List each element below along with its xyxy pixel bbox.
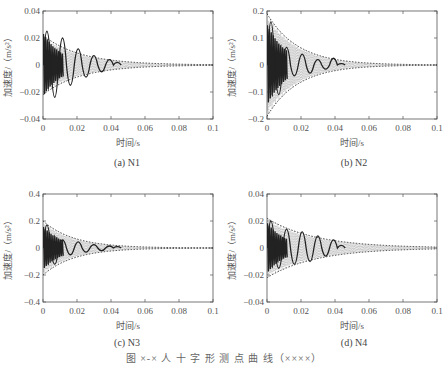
x-axis-label: 时间/s xyxy=(340,320,365,331)
x-axis-label: 时间/s xyxy=(116,137,141,148)
y-axis-label: 加速度/（m/s²） xyxy=(2,33,13,96)
chart-panel-d: 00.020.040.060.080.1−0.04−0.0200.020.04时… xyxy=(224,184,448,344)
x-axis-label: 时间/s xyxy=(116,320,141,331)
plot-frame xyxy=(43,194,213,302)
theoretical-oscillation xyxy=(43,221,213,274)
x-tick-label: 0.04 xyxy=(103,123,119,133)
figure-caption: 图 ×-× 人 十 字 形 测 点 曲 线（××××） xyxy=(0,350,448,365)
x-tick-label: 0 xyxy=(41,123,46,133)
x-tick-label: 0.1 xyxy=(431,306,442,316)
y-tick-label: −0.02 xyxy=(19,87,40,97)
x-tick-label: 0.06 xyxy=(137,306,153,316)
chart-a: 00.020.040.060.080.1−0.04−0.0200.020.04时… xyxy=(0,0,224,175)
chart-c: 00.020.040.060.080.1−0.4−0.200.20.4时间/s加… xyxy=(0,184,224,344)
y-tick-label: −0.04 xyxy=(243,297,264,307)
x-tick-label: 0.02 xyxy=(69,306,85,316)
chart-panel-a: 00.020.040.060.080.1−0.04−0.0200.020.04时… xyxy=(0,0,224,175)
theoretical-oscillation xyxy=(267,218,437,276)
x-tick-label: 0.02 xyxy=(293,306,309,316)
y-tick-label: −0.4 xyxy=(24,297,41,307)
y-tick-label: 0 xyxy=(36,243,41,253)
x-tick-label: 0.08 xyxy=(395,306,411,316)
upper-envelope xyxy=(43,221,213,248)
y-tick-label: 0.4 xyxy=(29,189,41,199)
y-axis-label: 加速度/（m/s²） xyxy=(226,33,237,96)
chart-caption-b: (b) N2 xyxy=(294,157,414,168)
y-tick-label: 0.2 xyxy=(29,216,40,226)
plot-frame xyxy=(267,11,437,119)
x-tick-label: 0.06 xyxy=(361,306,377,316)
theoretical-oscillation xyxy=(43,35,213,93)
theoretical-oscillation xyxy=(267,14,437,114)
y-tick-label: 0.04 xyxy=(248,189,264,199)
y-tick-label: −0.04 xyxy=(19,114,40,124)
y-tick-label: −0.2 xyxy=(248,114,264,124)
chart-panel-b: 00.020.040.060.080.1−0.2−0.100.10.2时间/s加… xyxy=(224,0,448,175)
x-tick-label: 0.06 xyxy=(361,123,377,133)
y-tick-label: −0.02 xyxy=(243,270,264,280)
y-axis-label: 加速度/（m/s²） xyxy=(226,216,237,279)
y-tick-label: 0.02 xyxy=(248,216,264,226)
upper-envelope xyxy=(267,14,437,65)
x-tick-label: 0.02 xyxy=(293,123,309,133)
upper-envelope xyxy=(43,35,213,64)
plot-frame xyxy=(267,194,437,302)
y-tick-label: 0.2 xyxy=(253,6,264,16)
x-tick-label: 0.1 xyxy=(431,123,442,133)
x-axis-label: 时间/s xyxy=(340,137,365,148)
x-tick-label: 0.04 xyxy=(327,306,343,316)
y-tick-label: 0.04 xyxy=(24,6,40,16)
y-axis-label: 加速度/（m/s²） xyxy=(2,216,13,279)
x-tick-label: 0 xyxy=(265,306,270,316)
upper-envelope xyxy=(267,218,437,247)
x-tick-label: 0 xyxy=(41,306,46,316)
x-tick-label: 0.04 xyxy=(103,306,119,316)
x-tick-label: 0.04 xyxy=(327,123,343,133)
x-tick-label: 0.02 xyxy=(69,123,85,133)
x-tick-label: 0 xyxy=(265,123,270,133)
x-tick-label: 0.1 xyxy=(207,123,218,133)
chart-caption-c: (c) N3 xyxy=(67,337,187,348)
x-tick-label: 0.1 xyxy=(207,306,218,316)
x-tick-label: 0.08 xyxy=(395,123,411,133)
chart-d: 00.020.040.060.080.1−0.04−0.0200.020.04时… xyxy=(224,184,448,344)
x-tick-label: 0.08 xyxy=(171,123,187,133)
chart-b: 00.020.040.060.080.1−0.2−0.100.10.2时间/s加… xyxy=(224,0,448,175)
plot-frame xyxy=(43,11,213,119)
lower-envelope xyxy=(267,249,437,278)
y-tick-label: 0 xyxy=(260,243,265,253)
chart-caption-d: (d) N4 xyxy=(294,337,414,348)
x-tick-label: 0.08 xyxy=(171,306,187,316)
x-tick-label: 0.06 xyxy=(137,123,153,133)
chart-caption-a: (a) N1 xyxy=(67,157,187,168)
y-tick-label: 0 xyxy=(36,60,41,70)
y-tick-label: 0.02 xyxy=(24,33,40,43)
y-tick-label: 0 xyxy=(260,60,265,70)
y-tick-label: −0.2 xyxy=(24,270,40,280)
chart-panel-c: 00.020.040.060.080.1−0.4−0.200.20.4时间/s加… xyxy=(0,184,224,344)
y-tick-label: 0.1 xyxy=(253,33,264,43)
y-tick-label: −0.1 xyxy=(248,87,264,97)
